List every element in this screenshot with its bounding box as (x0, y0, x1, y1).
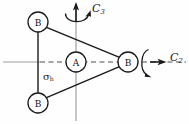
atom-label: B (35, 99, 42, 109)
c3-axis-arrowhead-icon (73, 2, 79, 22)
bond-btl-bright (47, 27, 120, 57)
label-sigma-h-sub: h (50, 75, 54, 82)
label-sigma-h-base: σ (43, 71, 50, 82)
label-c3: C3 (92, 2, 105, 16)
atom-b-bottom-left: B (28, 93, 48, 113)
c2-curved-rotation-arrow-icon (142, 50, 152, 78)
label-c2: C2 (170, 51, 183, 65)
symmetry-diagram-figure: B B B A (0, 0, 189, 124)
atom-label: B (35, 18, 42, 28)
label-c3-sub: 3 (100, 8, 104, 16)
atom-b-right: B (118, 52, 138, 72)
label-sigma-h: σh (43, 71, 54, 82)
atom-b-top-left: B (28, 12, 48, 32)
atom-label: A (72, 58, 80, 68)
label-c2-sub: 2 (178, 57, 182, 65)
c3-curved-rotation-arrow-icon (66, 10, 92, 21)
c2-axis-arrowhead-icon (150, 59, 167, 66)
atom-label: B (125, 58, 132, 68)
diagram-canvas: B B B A (0, 0, 189, 124)
bond-bbl-bright (47, 67, 120, 98)
atom-a-center: A (66, 52, 86, 72)
